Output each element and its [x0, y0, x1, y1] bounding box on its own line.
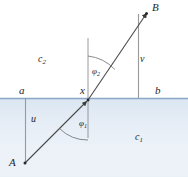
label-point-a: a	[19, 85, 25, 96]
label-medium-upper-sub: 2	[43, 58, 46, 65]
label-angle-phi2-sub: 2	[97, 71, 100, 77]
label-medium-upper-base: c	[38, 53, 42, 64]
label-point-B: B	[152, 2, 159, 13]
lower-medium-region-fade	[0, 99, 188, 177]
label-angle-phi1: φ1	[79, 119, 87, 128]
label-point-A: A	[9, 157, 16, 168]
label-segment-u: u	[31, 114, 36, 124]
label-segment-v: v	[140, 54, 144, 64]
refracted-ray	[88, 14, 147, 101]
point-marker-X	[87, 99, 90, 102]
label-medium-upper: c2	[38, 54, 46, 64]
label-medium-lower-sub: 1	[140, 136, 143, 143]
label-angle-phi1-sub: 1	[84, 123, 87, 129]
point-marker-A	[24, 162, 27, 165]
point-marker-B	[145, 12, 148, 15]
label-medium-lower: c1	[135, 132, 143, 142]
label-medium-lower-base: c	[135, 131, 139, 142]
refraction-diagram: A B x a b u v c2 c1 φ2 φ1	[0, 0, 188, 177]
label-point-b: b	[155, 85, 161, 96]
label-angle-phi2: φ2	[92, 67, 100, 76]
label-point-x: x	[80, 85, 85, 96]
